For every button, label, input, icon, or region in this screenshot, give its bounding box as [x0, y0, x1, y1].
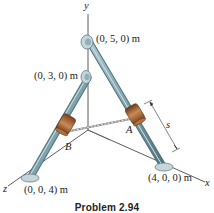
x-axis-label: x [205, 178, 210, 189]
mount-mid [81, 71, 91, 84]
z-axis-label: z [3, 184, 7, 195]
diagram-figure: y x z (0, 5, 0) m (0, 3, 0) m (4, 0, 0) … [0, 0, 214, 213]
dimension-s-label: s [166, 120, 170, 131]
collar-a-label: A [126, 125, 132, 136]
mount-x-base [155, 163, 173, 171]
point-label-x-base: (4, 0, 0) m [148, 173, 192, 184]
point-label-mid: (0, 3, 0) m [34, 71, 78, 82]
point-label-top: (0, 5, 0) m [96, 34, 140, 45]
mount-z-base [21, 174, 39, 182]
figure-caption: Problem 2.94 [0, 202, 214, 213]
point-label-z-base: (0, 0, 4) m [24, 185, 68, 196]
mount-top [81, 35, 93, 49]
cable-ab [70, 119, 130, 131]
y-axis-label: y [84, 1, 89, 12]
collar-b-label: B [65, 142, 71, 153]
z-axis-line [8, 130, 88, 186]
